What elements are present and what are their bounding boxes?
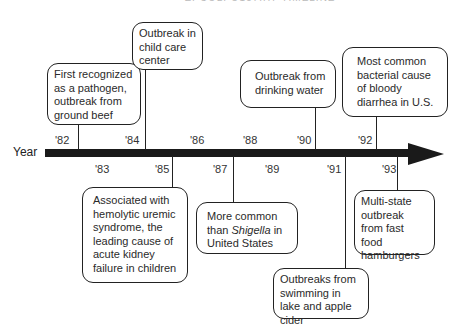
tick-1983: '83 [95,163,109,175]
event-text: Most common bacterial cause of bloody di… [357,55,433,108]
event-text: Multi-state outbreak from fast food hamb… [361,195,420,261]
connector-1990 [315,107,316,150]
tick-1987: '87 [213,163,227,175]
tick-1982: '82 [55,134,69,146]
tick-1988: '88 [243,134,257,146]
connector-1984 [145,69,146,150]
event-box-1990: Outbreak from drinking water [240,60,336,108]
tick-1993: '93 [382,163,396,175]
connector-1982 [78,124,79,150]
event-box-1982: First recognized as a pathogen, outbreak… [47,63,141,125]
tick-1991: '91 [327,163,341,175]
timeline-bar [45,149,415,157]
event-box-1987: More common than Shigella in United Stat… [196,202,298,254]
diagram-title: E. COLI O157:H7 TIMELINE [150,0,370,3]
connector-1991 [345,156,346,269]
event-text: First recognized as a pathogen, outbreak… [54,68,132,121]
tick-1984: '84 [125,134,139,146]
event-box-1984: Outbreak in child care center [132,22,203,70]
connector-1992 [376,116,377,150]
connector-1993 [397,156,398,191]
event-box-1991: Outbreaks from swimming in lake and appl… [273,268,369,319]
tick-1986: '86 [190,134,204,146]
event-box-1985: Associated with hemolytic uremic syndrom… [82,187,188,283]
event-text: Associated with hemolytic uremic syndrom… [93,194,176,274]
tick-1990: '90 [297,134,311,146]
connector-1987 [233,156,234,203]
axis-label: Year [13,145,37,159]
event-text: Outbreak in child care center [139,27,196,66]
event-text: Outbreaks from swimming in lake and appl… [280,273,356,326]
tick-1992: '92 [358,134,372,146]
event-box-1992: Most common bacterial cause of bloody di… [342,47,448,117]
event-text-italic: Shigella [231,224,270,236]
timeline-arrow-icon [408,143,444,165]
event-text: Outbreak from drinking water [255,70,325,96]
tick-1985: '85 [155,163,169,175]
tick-1989: '89 [265,163,279,175]
event-box-1993: Multi-state outbreak from fast food hamb… [354,190,435,255]
connector-1985 [172,156,173,188]
